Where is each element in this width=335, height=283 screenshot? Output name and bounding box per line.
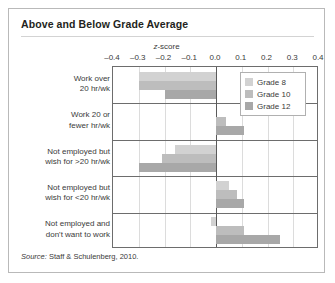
y-category-label-line: wish for <20 hr/wk [15,193,110,204]
chart-bar [216,226,244,235]
x-tick-label: –0.3 [125,53,151,62]
legend-item: Grade 12 [245,100,301,112]
source-citation: Staff & Schulenberg, 2010. [47,252,139,261]
x-tick-label: 0.2 [254,53,280,62]
y-category-label-line: don't want to work [15,230,110,241]
y-category-label-line: Work over [15,74,110,85]
x-tick-label: 0.4 [305,53,331,62]
x-tick-label: 0.3 [279,53,305,62]
y-axis-category-labels: Work over20 hr/wkWork 20 orfewer hr/wkNo… [15,66,110,248]
page-title: Above and Below Grade Average [21,18,188,30]
x-axis-tick-labels: –0.4–0.3–0.2–0.10.00.10.20.30.4 [112,53,323,65]
category-separator [113,213,317,214]
chart-bar [139,163,216,172]
chart-bar [216,235,280,244]
x-tick-label: –0.1 [176,53,202,62]
zero-line [216,67,217,247]
chart-bar [139,72,216,81]
y-category-label-line: Work 20 or [15,110,110,121]
y-category-label: Not employed butwish for <20 hr/wk [15,183,110,204]
y-category-label: Work 20 orfewer hr/wk [15,110,110,131]
y-category-label: Not employed butwish for >20 hr/wk [15,147,110,168]
legend-swatch-icon [245,102,253,110]
legend-item: Grade 8 [245,76,301,88]
chart-bar [175,145,216,154]
x-tick-label: –0.4 [99,53,125,62]
chart-figure: Above and Below Grade Average z-score –0… [8,8,325,273]
chart-bar [216,117,226,126]
x-axis-title: z-score [9,42,324,51]
chart-legend: Grade 8Grade 10Grade 12 [240,72,306,116]
legend-label: Grade 10 [257,90,290,99]
chart-bar [139,81,216,90]
x-tick-label: 0.0 [202,53,228,62]
chart-bar [165,90,217,99]
category-separator [113,140,317,141]
y-category-label-line: Not employed but [15,183,110,194]
legend-swatch-icon [245,90,253,98]
y-category-label-line: 20 hr/wk [15,84,110,95]
chart-bar [216,199,244,208]
y-category-label: Not employed anddon't want to work [15,219,110,240]
title-divider [21,36,314,37]
x-tick-label: 0.1 [228,53,254,62]
source-label: Source: [21,252,47,261]
y-category-label-line: fewer hr/wk [15,121,110,132]
y-category-label: Work over20 hr/wk [15,74,110,95]
legend-swatch-icon [245,78,253,86]
chart-bar [216,126,244,135]
chart-bar [216,181,229,190]
chart-bar [162,154,216,163]
gridline [139,67,140,247]
legend-item: Grade 10 [245,88,301,100]
y-category-label-line: wish for >20 hr/wk [15,157,110,168]
legend-label: Grade 8 [257,78,286,87]
source-note: Source: Staff & Schulenberg, 2010. [21,252,138,261]
y-category-label-line: Not employed and [15,219,110,230]
x-axis-title-rest: -score [157,42,179,51]
chart-bar [216,190,237,199]
category-separator [113,176,317,177]
y-category-label-line: Not employed but [15,147,110,158]
legend-label: Grade 12 [257,102,290,111]
chart-bar [211,217,216,226]
x-tick-label: –0.2 [151,53,177,62]
